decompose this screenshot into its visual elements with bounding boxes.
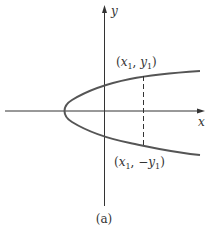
x-axis-label: x [198,115,205,129]
parabola-diagram: y x (x1, y1) (x1, −y1) (a) [0,0,207,228]
lower-point-label: (x1, −y1) [114,155,165,171]
y-axis-arrow-icon [102,5,107,13]
upper-point-label: (x1, y1) [116,55,157,71]
x-axis-arrow-icon [197,109,205,114]
parabola-curve [65,71,201,155]
figure-caption: (a) [96,212,113,226]
y-axis-label: y [110,4,118,18]
